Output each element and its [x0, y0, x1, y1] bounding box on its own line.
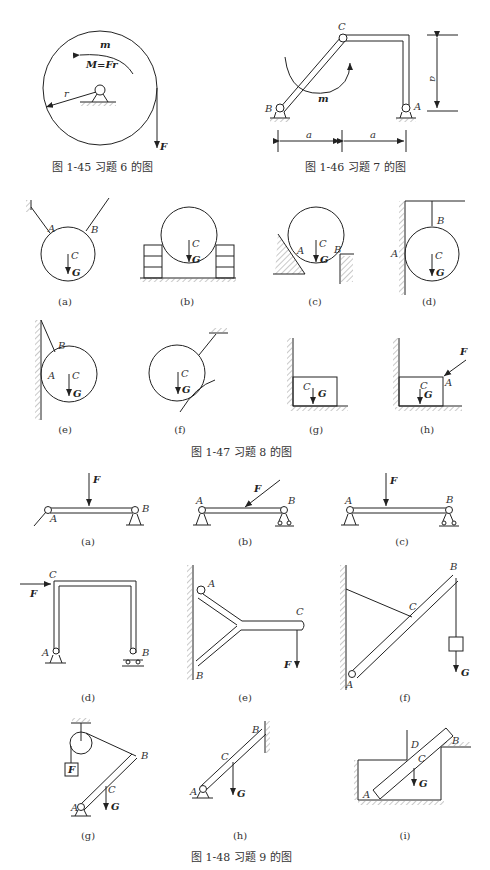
- fig-1-47e-label: (e): [58, 424, 72, 435]
- equation-label: M=Fr: [85, 59, 118, 70]
- svg-text:B: B: [449, 561, 457, 572]
- svg-text:G: G: [419, 778, 428, 789]
- svg-text:F: F: [283, 659, 292, 670]
- svg-text:G: G: [73, 388, 82, 399]
- svg-text:A: A: [189, 786, 197, 797]
- svg-text:F: F: [459, 346, 468, 357]
- fig-1-46-frame-diagram: C B A m a a a: [264, 21, 458, 152]
- fig-1-48h-label: (h): [233, 830, 247, 841]
- svg-text:G: G: [436, 267, 445, 278]
- svg-text:A: A: [47, 370, 55, 381]
- svg-text:A: A: [390, 248, 398, 259]
- svg-text:G: G: [424, 389, 433, 400]
- fig-1-48e-label: (e): [238, 692, 252, 703]
- svg-text:B: B: [264, 103, 272, 114]
- svg-text:C: C: [296, 606, 304, 617]
- svg-text:C: C: [108, 784, 116, 795]
- svg-text:C: C: [303, 381, 311, 392]
- fig-1-47d-label: (d): [422, 296, 436, 307]
- svg-text:C: C: [71, 250, 79, 261]
- fig-1-47h-label: (h): [420, 424, 434, 435]
- fig-1-47a-label: (a): [58, 296, 72, 307]
- fig-1-48c-label: (c): [395, 536, 408, 547]
- fig-1-48b-label: (b): [238, 536, 252, 547]
- svg-text:B: B: [195, 670, 203, 681]
- fig-1-47h: C G A F: [393, 338, 468, 411]
- moment-label: m: [100, 39, 111, 50]
- fig-1-48g: F B A C G: [65, 718, 148, 816]
- fig-1-48e: A C F B: [187, 565, 304, 681]
- fig-1-48a: F B A: [34, 473, 149, 526]
- svg-text:A: A: [344, 495, 352, 506]
- fig-1-48d-label: (d): [81, 692, 95, 703]
- fig-1-48f-label: (f): [399, 692, 411, 703]
- svg-text:B: B: [141, 647, 149, 658]
- svg-text:B: B: [436, 215, 444, 226]
- fig-1-48b: F A B: [193, 480, 295, 526]
- svg-text:A: A: [195, 495, 203, 506]
- fig-1-47g-label: (g): [309, 424, 323, 435]
- fig-1-47e: B A C G: [35, 320, 97, 420]
- fig-1-48i-label: (i): [399, 830, 410, 841]
- svg-text:A: A: [207, 578, 215, 589]
- fig-1-46-caption: 图 1-46 习题 7 的图: [305, 158, 406, 174]
- fig-1-47f: C G: [149, 328, 228, 412]
- svg-text:B: B: [141, 503, 149, 514]
- svg-text:B: B: [451, 735, 459, 746]
- svg-text:F: F: [29, 588, 38, 599]
- svg-text:G: G: [318, 388, 327, 399]
- fig-1-47-caption: 图 1-47 习题 8 的图: [191, 443, 292, 459]
- fig-1-48c: F A B: [341, 473, 459, 526]
- svg-text:a: a: [370, 129, 376, 140]
- fig-1-48f: C A B G: [340, 561, 470, 690]
- fig-1-48-caption: 图 1-48 习题 9 的图: [191, 848, 292, 864]
- svg-text:C: C: [418, 753, 426, 764]
- fig-1-48i: D C B A G: [354, 728, 471, 805]
- fig-1-47b: C G: [140, 207, 236, 282]
- svg-text:A: A: [362, 789, 370, 800]
- svg-text:F: F: [67, 764, 76, 775]
- fig-1-48g-label: (g): [81, 830, 95, 841]
- svg-text:C: C: [319, 238, 327, 249]
- svg-text:G: G: [72, 267, 81, 278]
- svg-text:G: G: [192, 254, 201, 265]
- svg-text:C: C: [72, 370, 80, 381]
- svg-text:G: G: [461, 667, 470, 678]
- svg-text:B: B: [287, 495, 295, 506]
- svg-text:C: C: [338, 21, 346, 32]
- svg-text:a: a: [428, 76, 439, 82]
- fig-1-48a-label: (a): [81, 536, 95, 547]
- svg-text:A: A: [413, 101, 421, 112]
- svg-text:C: C: [192, 238, 200, 249]
- fig-1-45-pulley-diagram: m M=Fr r F: [43, 31, 168, 152]
- svg-text:B: B: [445, 494, 453, 505]
- fig-1-47g: C G: [287, 338, 348, 411]
- svg-text:C: C: [435, 250, 443, 261]
- svg-text:C: C: [221, 751, 229, 762]
- svg-text:G: G: [111, 801, 120, 812]
- svg-text:r: r: [64, 88, 70, 99]
- fig-1-47c-label: (c): [308, 296, 321, 307]
- svg-text:A: A: [41, 647, 49, 658]
- svg-text:G: G: [320, 254, 329, 265]
- svg-text:m: m: [318, 93, 329, 104]
- svg-text:B: B: [140, 750, 148, 761]
- svg-text:D: D: [410, 739, 419, 750]
- fig-1-48d: F C A B: [20, 569, 149, 666]
- fig-1-48h: B A C G: [189, 721, 270, 799]
- svg-text:A: A: [345, 679, 353, 690]
- svg-text:F: F: [159, 141, 168, 152]
- svg-text:B: B: [90, 224, 98, 235]
- fig-1-47a: A B C G: [26, 198, 109, 281]
- fig-1-47d: B A C G: [390, 201, 465, 295]
- svg-text:F: F: [389, 475, 398, 486]
- fig-1-47b-label: (b): [180, 296, 194, 307]
- fig-1-47f-label: (f): [174, 424, 186, 435]
- svg-text:B: B: [251, 724, 259, 735]
- svg-text:A: A: [296, 245, 304, 256]
- diagram-canvas: m M=Fr r F C B A m a: [0, 0, 490, 870]
- svg-text:C: C: [49, 569, 57, 580]
- svg-text:a: a: [306, 129, 312, 140]
- svg-text:G: G: [237, 788, 246, 799]
- svg-text:G: G: [182, 384, 191, 395]
